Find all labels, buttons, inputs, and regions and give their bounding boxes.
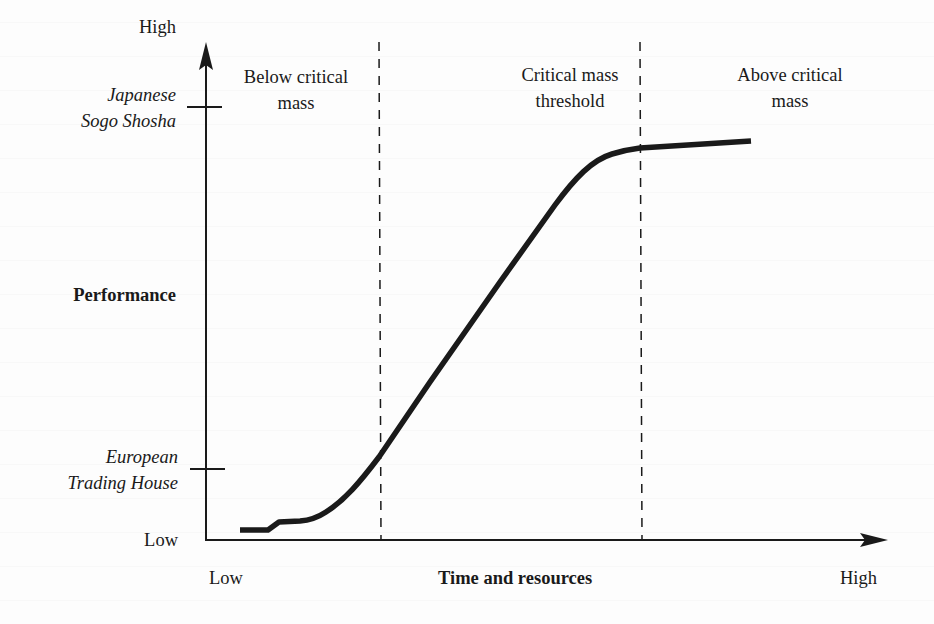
y-axis-high-label: High — [100, 14, 176, 40]
zone-above-line2: mass — [700, 88, 880, 114]
zone-threshold-line2: threshold — [470, 88, 670, 114]
y-marker-european-line1: European — [30, 444, 178, 470]
y-axis-low-label: Low — [100, 527, 178, 553]
y-marker-japanese-line1: Japanese — [40, 82, 176, 108]
zone-below-line1: Below critical — [212, 64, 380, 90]
x-axis-low-label: Low — [209, 565, 243, 591]
performance-curve — [240, 141, 751, 530]
zone-boundary-left — [379, 42, 381, 540]
y-axis-title: Performance — [20, 282, 176, 308]
y-marker-european-line2: Trading House — [30, 470, 178, 496]
figure-canvas: High Japanese Sogo Shosha Performance Eu… — [0, 0, 934, 624]
y-marker-japanese-line2: Sogo Shosha — [40, 108, 176, 134]
x-axis-title: Time and resources — [438, 565, 592, 591]
zone-boundary-right — [640, 42, 642, 540]
zone-below-line2: mass — [212, 90, 380, 116]
zone-above-line1: Above critical — [700, 62, 880, 88]
x-axis-high-label: High — [840, 565, 877, 591]
zone-threshold-line1: Critical mass — [470, 62, 670, 88]
